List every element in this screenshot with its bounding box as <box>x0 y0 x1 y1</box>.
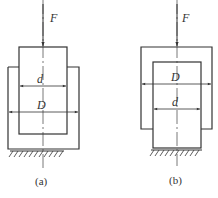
caption-b: (b) <box>169 174 182 187</box>
figure-a: F d D (a) <box>8 0 79 188</box>
force-label-a: F <box>49 11 58 25</box>
force-label-b: F <box>181 11 190 25</box>
figure-b: F D d (b) <box>141 0 212 187</box>
caption-a: (a) <box>35 175 48 188</box>
dim-label-D-b: D <box>170 70 180 84</box>
dim-label-d-a: d <box>37 72 44 86</box>
dim-label-D-a: D <box>36 98 46 112</box>
diagram-canvas: F d D (a) F <box>0 0 218 198</box>
dim-label-d-b: d <box>172 95 179 109</box>
ground-hatch-b <box>150 150 199 156</box>
ground-hatch-a <box>9 151 63 157</box>
